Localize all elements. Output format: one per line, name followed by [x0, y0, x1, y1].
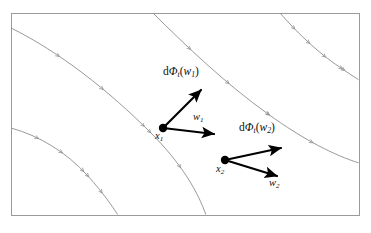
label-w1: w1: [193, 112, 204, 124]
label-x1: x1: [155, 131, 163, 143]
base-point-x2: [221, 156, 229, 164]
integral-curve-direction-ticks: [280, 13, 359, 80]
label-x1-sub: 1: [160, 135, 164, 143]
label-dphi-w1-close: ): [195, 65, 199, 77]
integral-curve-direction-ticks: [11, 28, 206, 215]
diagram-canvas: [0, 0, 371, 233]
label-dphi-w2: dΦt(w2): [239, 122, 275, 135]
label-w1-base: w: [193, 111, 200, 122]
integral-curve-direction-ticks: [11, 128, 118, 215]
pushforward-vector-dphi-w2: [225, 148, 281, 160]
label-w2-base: w: [269, 177, 276, 188]
label-x2: x2: [216, 164, 224, 176]
label-w1-sub: 1: [200, 116, 204, 124]
tangent-vector-w1: [163, 128, 214, 134]
label-dphi-w2-phi: Φ: [245, 121, 254, 133]
label-x2-sub: 2: [221, 168, 225, 176]
integral-curve: [280, 13, 359, 80]
label-w2-sub: 2: [276, 182, 280, 190]
label-dphi-w1-phi: Φ: [169, 65, 178, 77]
integral-curve: [11, 28, 206, 215]
tangent-vector-w2: [225, 160, 277, 176]
label-dphi-w2-close: ): [271, 121, 275, 133]
bounding-rectangle: [12, 14, 360, 216]
flow-diagram-figure: dΦt(w1) dΦt(w2) w1 w2 x1 x2: [0, 0, 371, 233]
label-w2: w2: [269, 178, 280, 190]
integral-curve: [153, 13, 359, 163]
base-points-group: [159, 124, 229, 164]
integral-curve-direction-ticks: [153, 13, 359, 163]
label-dphi-w1: dΦt(w1): [163, 66, 199, 79]
integral-curve: [11, 128, 118, 215]
integral-curves-group: [11, 13, 359, 215]
